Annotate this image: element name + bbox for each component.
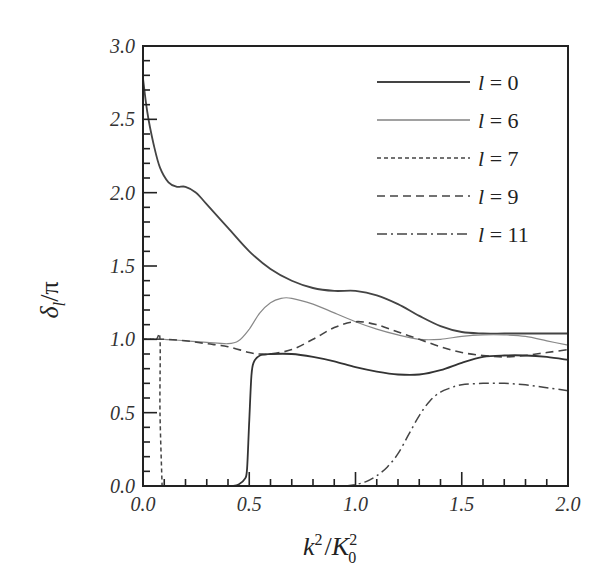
- series-line-1: [143, 298, 568, 346]
- y-tick-label: 2.0: [110, 182, 135, 204]
- legend-label: l = 9: [478, 184, 519, 209]
- y-tick-label: 0.5: [110, 402, 135, 424]
- plot-curves: [143, 78, 568, 486]
- x-tick-label: 1.5: [449, 493, 474, 515]
- legend-label: l = 0: [478, 70, 519, 95]
- series-line-5: [232, 354, 568, 486]
- series-line-3: [143, 322, 568, 357]
- x-tick-label: 2.0: [556, 493, 581, 515]
- y-axis-ticks: 0.00.51.01.52.02.53.0: [109, 35, 157, 497]
- y-tick-label: 1.0: [110, 328, 135, 350]
- series-line-4: [345, 383, 568, 486]
- y-tick-label: 2.5: [110, 108, 135, 130]
- y-tick-label: 3.0: [109, 35, 135, 57]
- legend-label: l = 6: [478, 108, 519, 133]
- series-line-2: [143, 334, 162, 486]
- x-tick-label: 0.5: [237, 493, 262, 515]
- phase-shift-chart: 0.00.51.01.52.0 0.00.51.01.52.02.53.0 l …: [0, 0, 610, 587]
- legend-label: l = 11: [478, 222, 529, 247]
- legend-label: l = 7: [478, 146, 519, 171]
- y-axis-label: δl/π: [35, 281, 69, 318]
- x-axis-ticks: 0.00.51.01.52.0: [131, 472, 581, 515]
- y-tick-label: 1.5: [110, 255, 135, 277]
- y-tick-label: 0.0: [110, 475, 135, 497]
- legend: l = 0l = 6l = 7l = 9l = 11: [377, 70, 529, 247]
- x-axis-label: k2/K20: [303, 531, 357, 566]
- x-tick-label: 1.0: [343, 493, 368, 515]
